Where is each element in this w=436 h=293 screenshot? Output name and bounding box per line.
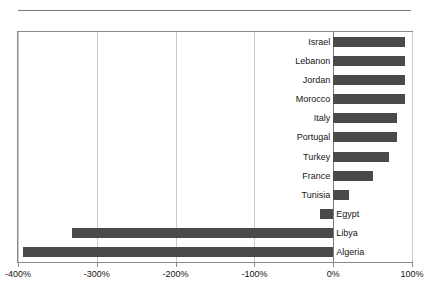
x-tick-mark <box>412 263 413 267</box>
bar <box>23 247 333 257</box>
category-label: Jordan <box>303 75 331 85</box>
category-label: Tunisia <box>302 190 331 200</box>
category-label: Portugal <box>297 132 331 142</box>
category-label: Egypt <box>336 209 359 219</box>
bar <box>333 190 349 200</box>
x-tick-mark <box>97 263 98 267</box>
bar <box>333 113 397 123</box>
category-label: Algeria <box>336 247 364 257</box>
x-tick-mark <box>18 263 19 267</box>
x-tick-mark <box>254 263 255 267</box>
category-label: Morocco <box>296 94 331 104</box>
x-tick-label: -200% <box>163 269 189 280</box>
bars-layer: IsraelLebanonJordanMoroccoItalyPortugalT… <box>18 32 412 262</box>
bar <box>333 56 405 66</box>
bar <box>320 209 333 219</box>
x-axis: -400%-300%-200%-100%0%100% <box>17 263 413 293</box>
category-label: France <box>302 171 330 181</box>
category-label: Lebanon <box>295 56 330 66</box>
bar <box>333 152 389 162</box>
bar <box>333 94 405 104</box>
bar <box>333 37 405 47</box>
bar <box>72 228 333 238</box>
chart-figure: IsraelLebanonJordanMoroccoItalyPortugalT… <box>0 0 436 293</box>
category-label: Italy <box>314 113 331 123</box>
category-label: Israel <box>308 37 330 47</box>
bar <box>333 171 372 181</box>
category-label: Turkey <box>303 152 330 162</box>
bar <box>333 75 405 85</box>
x-tick-label: -100% <box>241 269 267 280</box>
bar <box>333 132 397 142</box>
x-tick-label: -400% <box>5 269 31 280</box>
x-tick-mark <box>176 263 177 267</box>
x-tick-label: -300% <box>84 269 110 280</box>
x-tick-mark <box>333 263 334 267</box>
x-tick-label: 100% <box>400 269 423 280</box>
plot-area: IsraelLebanonJordanMoroccoItalyPortugalT… <box>17 31 413 263</box>
gridline <box>412 32 413 262</box>
header-divider <box>18 10 411 11</box>
x-tick-label: 0% <box>327 269 340 280</box>
category-label: Libya <box>336 228 358 238</box>
